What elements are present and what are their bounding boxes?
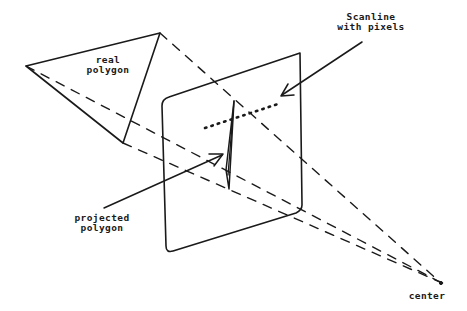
real-polygon-label-line2: polygon [76, 65, 140, 75]
projection-diagram [0, 0, 467, 311]
ray-bottom-vertex [123, 143, 440, 282]
ray-left-vertex [26, 66, 440, 282]
projected-polygon-label-line2: polygon [62, 223, 142, 233]
center-point [439, 281, 442, 284]
scanline-label-line2: with pixels [326, 22, 416, 32]
projected-polygon-label: projected polygon [62, 213, 142, 233]
real-polygon [26, 33, 160, 143]
scanline-arrow [281, 42, 362, 96]
scanline-pixels [205, 104, 278, 128]
center-label: center [402, 291, 452, 301]
real-polygon-label: real polygon [76, 55, 140, 75]
projection-plane [162, 53, 302, 251]
center-label-text: center [402, 291, 452, 301]
scanline-label: Scanline with pixels [326, 12, 416, 32]
